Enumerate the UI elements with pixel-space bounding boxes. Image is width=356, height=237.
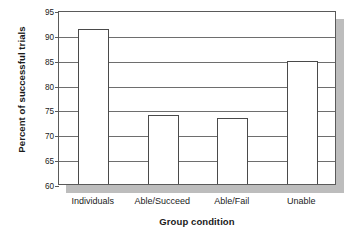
y-axis-tick-label: 90	[45, 32, 59, 41]
y-axis-tick-label: 85	[45, 57, 59, 66]
y-axis-title: Percent of successful trials	[16, 5, 27, 175]
bar-chart-figure: Percent of successful trials 60657075808…	[0, 0, 356, 237]
x-axis-title: Group condition	[58, 216, 336, 227]
bar	[217, 118, 248, 184]
y-axis-tick-label: 60	[45, 182, 59, 191]
plot-area: 6065707580859095	[58, 11, 336, 185]
bar	[148, 115, 179, 184]
x-axis-category-label: Unable	[241, 196, 356, 206]
y-axis-tick-label: 95	[45, 8, 59, 17]
y-axis-tick-label: 65	[45, 157, 59, 166]
bar	[78, 29, 109, 184]
y-axis-tick-label: 70	[45, 132, 59, 141]
bar	[287, 61, 318, 184]
y-axis-tick-label: 80	[45, 82, 59, 91]
y-axis-tick-label: 75	[45, 107, 59, 116]
